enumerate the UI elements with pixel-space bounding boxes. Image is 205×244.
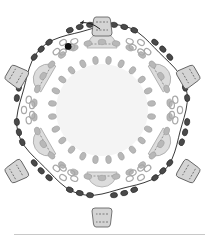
- light-bead: [92, 155, 99, 164]
- dark-bead: [110, 192, 118, 198]
- dark-bead: [65, 186, 74, 194]
- drop-bead: [175, 158, 201, 185]
- light-bead: [98, 175, 106, 181]
- dark-bead: [120, 190, 128, 197]
- arrow-head-icon: [80, 20, 84, 24]
- dark-bead: [30, 53, 39, 62]
- dark-bead: [184, 118, 190, 126]
- dark-bead: [158, 45, 167, 54]
- light-bead: [48, 100, 57, 107]
- dark-bead: [14, 118, 20, 126]
- black-bead: [65, 43, 72, 50]
- center-area: [56, 64, 148, 156]
- divider-line: [14, 234, 205, 235]
- dark-bead: [19, 138, 27, 147]
- drop-bead: [92, 208, 112, 227]
- dark-bead: [14, 94, 20, 102]
- drop-bead: [3, 63, 29, 90]
- beadwork-svg: [0, 0, 205, 244]
- dark-bead: [37, 45, 46, 54]
- dark-bead: [178, 138, 186, 147]
- ring-bead: [137, 38, 146, 46]
- light-bead: [98, 39, 106, 45]
- drop-bead: [92, 17, 112, 36]
- ring-bead: [59, 173, 68, 181]
- dark-bead: [86, 192, 94, 198]
- drop-bead: [3, 158, 29, 185]
- dark-bead: [130, 186, 139, 194]
- ring-bead: [177, 106, 182, 113]
- dark-bead: [182, 128, 189, 136]
- dark-bead: [130, 27, 139, 35]
- dark-bead: [166, 159, 175, 168]
- dark-bead: [184, 94, 190, 102]
- light-bead: [105, 56, 112, 65]
- beadwork-diagram: [0, 0, 205, 244]
- light-bead: [105, 155, 112, 164]
- light-bead: [48, 113, 57, 120]
- light-bead: [147, 113, 156, 120]
- dark-bead: [151, 174, 160, 183]
- ring-bead: [21, 106, 26, 113]
- dark-bead: [120, 23, 128, 30]
- light-bead: [92, 56, 99, 65]
- dark-bead: [45, 38, 54, 47]
- light-bead: [147, 100, 156, 107]
- dark-bead: [76, 23, 84, 30]
- drop-bead: [175, 63, 201, 90]
- dark-bead: [76, 190, 84, 197]
- dark-bead: [37, 166, 46, 175]
- dark-bead: [65, 27, 74, 35]
- ring-bead: [137, 173, 146, 181]
- dark-bead: [15, 128, 22, 136]
- dark-bead: [158, 166, 167, 175]
